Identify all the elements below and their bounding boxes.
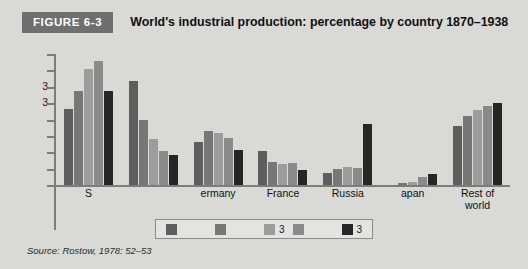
x-axis-label: ermany — [186, 188, 251, 200]
bar-groups-layer — [56, 44, 510, 185]
bar — [408, 182, 417, 185]
legend-item: 3 — [342, 224, 363, 235]
bar — [169, 155, 178, 185]
x-axis-labels: SermanyFranceRussiaapanRest of world — [56, 188, 510, 216]
bar — [483, 106, 492, 185]
bar-group — [251, 44, 316, 185]
y-axis-tick-label: 3 — [22, 81, 48, 92]
figure-header: FIGURE 6-3 World's industrial production… — [0, 9, 528, 35]
legend-item — [166, 224, 207, 235]
y-axis-tick — [47, 136, 54, 138]
bar — [473, 110, 482, 185]
legend-item — [293, 224, 334, 235]
bar — [363, 124, 372, 185]
legend-label: 3 — [279, 224, 285, 235]
bar — [288, 163, 297, 185]
bar — [224, 138, 233, 185]
bar — [74, 91, 83, 185]
bar — [104, 91, 113, 185]
y-axis-tick — [47, 87, 54, 89]
bar — [343, 167, 352, 185]
bar — [278, 164, 287, 185]
bar — [258, 151, 267, 185]
legend-swatch — [166, 224, 177, 235]
y-axis-tick — [47, 152, 54, 154]
legend-swatch — [215, 224, 226, 235]
chart-legend: 33 — [155, 219, 373, 239]
bar — [159, 151, 168, 185]
bar — [463, 116, 472, 185]
figure-number-badge: FIGURE 6-3 — [22, 12, 113, 33]
bar — [139, 120, 148, 185]
bar — [64, 109, 73, 185]
bar-group — [186, 44, 251, 185]
legend-item: 3 — [264, 224, 285, 235]
bar — [129, 81, 138, 185]
bar — [94, 61, 103, 185]
x-axis-label: apan — [380, 188, 445, 200]
figure-panel: FIGURE 6-3 World's industrial production… — [0, 0, 528, 269]
bar — [84, 69, 93, 185]
bar-group — [380, 44, 445, 185]
x-axis-label: Rest of world — [445, 188, 510, 211]
legend-swatch — [264, 224, 275, 235]
bar — [453, 126, 462, 185]
bar — [214, 133, 223, 185]
y-axis-tick — [47, 103, 54, 105]
legend-item — [215, 224, 256, 235]
legend-swatch — [293, 224, 304, 235]
bar — [149, 139, 158, 185]
figure-title: World's industrial production: percentag… — [130, 15, 508, 29]
y-axis-labels: 33 — [12, 44, 48, 230]
y-axis-tick — [47, 169, 54, 171]
bar — [493, 103, 502, 185]
bar — [333, 169, 342, 185]
chart-plot-area: 33 SermanyFranceRussiaapanRest of world — [0, 44, 528, 216]
y-axis-tick — [47, 70, 54, 72]
bar-group — [121, 44, 186, 185]
bar — [353, 168, 362, 185]
y-axis-tick-label: 3 — [22, 97, 48, 108]
bar — [418, 177, 427, 185]
bar — [398, 183, 407, 185]
bar — [234, 150, 243, 185]
y-axis-tick — [47, 54, 54, 56]
bar — [298, 170, 307, 185]
bar — [323, 173, 332, 185]
x-axis-label: S — [56, 188, 121, 200]
bar-group — [56, 44, 121, 185]
legend-swatch — [342, 224, 353, 235]
y-axis-tick — [47, 120, 54, 122]
x-axis-label: Russia — [315, 188, 380, 200]
source-note: Source: Rostow, 1978: 52–53 — [27, 245, 152, 256]
bar — [268, 162, 277, 185]
bar — [428, 174, 437, 185]
bar-group — [315, 44, 380, 185]
bar — [204, 131, 213, 185]
x-axis-label: France — [251, 188, 316, 200]
bar — [194, 142, 203, 185]
bar-group — [445, 44, 510, 185]
legend-label: 3 — [357, 224, 363, 235]
y-axis-tick — [47, 185, 54, 187]
